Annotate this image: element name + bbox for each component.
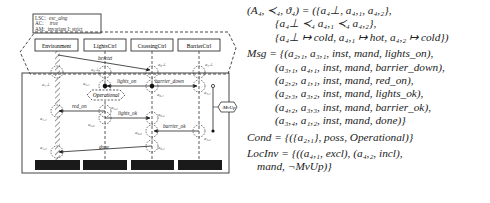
formula-msg-line-4: (a₂,₃, a₃,₂, inst, mand, lights_ok), [247, 87, 490, 100]
svg-text:Environment: Environment [42, 43, 72, 49]
label-a12: a₁,₂ [40, 145, 47, 151]
lsc-diagram: LSC:esc_alng AC:true AM:invariant I: str… [0, 0, 245, 203]
instance-environment[interactable]: Environment [35, 39, 78, 51]
label-a3-top: a₃⊥ [158, 62, 166, 67]
label-a21: a₂,₁ [83, 81, 90, 87]
formula-locinv-line-1: LocInv = {((a₄,₁, excl), (a₄,₂, incl), [247, 147, 490, 160]
condition-operational: Operational [87, 90, 125, 100]
label-a41: a₄,₁ [204, 90, 211, 96]
instance-end-barrierctrl [178, 160, 222, 170]
invariant-label: ¬MvUp [220, 105, 236, 110]
label-a11: a₁,₁ [40, 116, 47, 122]
label-a22: a₂,₂ [111, 105, 118, 111]
formula-msg-line-3: (a₂,₂, a₁,₁, inst, mand, red_on), [247, 74, 490, 87]
lsc-header-box: LSC:esc_alng AC:true AM:invariant I: str… [33, 14, 101, 33]
sync-dot-a21 [103, 84, 108, 89]
instance-barrierctrl[interactable]: BarrierCtrl [178, 39, 220, 51]
label-barrier-ok: barrier_ok [163, 123, 186, 129]
formula-locinv-line-2: mand, ¬MvUp)} [247, 160, 490, 173]
label-a23: a₂,₃ [88, 122, 95, 128]
svg-text:LightsCtrl: LightsCtrl [94, 43, 117, 49]
label-a31: a₃,₁ [157, 92, 164, 98]
label-done: done [99, 144, 110, 150]
svg-text:BarrierCtrl: BarrierCtrl [187, 43, 212, 49]
label-a2-top: a₂⊥ [91, 67, 99, 72]
label-a33: a₃,₃ [135, 130, 142, 136]
label-a1-top: a₁⊥ [42, 82, 50, 87]
main-chart-frame [22, 73, 229, 173]
label-barrier-down: barrier_down [155, 78, 184, 84]
label-a34: a₃,₄ [158, 145, 165, 151]
label-a4-top: a₄⊥ [205, 62, 213, 67]
label-lights-on: lights_on [117, 78, 137, 84]
formula-activation-line-1: (A₄, ≺₄, ϑ₄) = ({a₄⊥, a₄,₁, a₄,₂}, [247, 4, 490, 17]
label-red-on: red_on [72, 103, 87, 109]
label-a32: a₃,₂ [158, 112, 165, 118]
instance-end-crossingctrl [131, 160, 174, 170]
formula-cond-line: Cond = {({a₂,₁}, poss, Operational)} [247, 131, 490, 144]
label-lights-ok: lights_ok [118, 110, 138, 116]
label-besetzt: besetzt [98, 55, 113, 61]
instance-lightsctrl[interactable]: LightsCtrl [84, 39, 126, 51]
formula-activation-line-3: {a₄⊥ ↦ cold, a₄,₁ ↦ hot, a₄,₂ ↦ cold}) [247, 31, 490, 44]
formula-msg-line-5: (a₄,₂, a₃,₃, inst, mand, barrier_ok), [247, 101, 490, 114]
sync-dot-a31 [150, 84, 155, 89]
local-invariant: ¬MvUp [211, 84, 237, 132]
formula-activation-line-2: {a₄⊥ ≺₄ a₄,₁ ≺₄ a₄,₂}, [247, 17, 490, 30]
formula-msg-line-2: (a₃,₁, a₄,₁, inst, mand, barrier_down), [247, 61, 490, 74]
svg-text:CrossingCtrl: CrossingCtrl [138, 43, 167, 49]
invariant-start-marker [211, 84, 214, 87]
instance-end-lightsctrl [83, 160, 127, 170]
formula-msg-line-6: (a₃,₄, a₁,₂, inst, mand, done)} [247, 114, 490, 127]
instance-crossingctrl[interactable]: CrossingCtrl [131, 39, 173, 51]
formula-msg-line-1: Msg = {(a₂,₁, a₃,₁, inst, mand, lights_o… [247, 47, 490, 60]
header-line-am: AM:invariant I: strict [35, 26, 83, 32]
formal-definition: (A₄, ≺₄, ϑ₄) = ({a₄⊥, a₄,₁, a₄,₂}, {a₄⊥ … [247, 4, 490, 174]
instance-end-environment [35, 160, 80, 170]
invariant-end-marker [211, 129, 214, 132]
label-a42: a₄,₂ [204, 136, 211, 142]
svg-text:Operational: Operational [93, 92, 120, 98]
